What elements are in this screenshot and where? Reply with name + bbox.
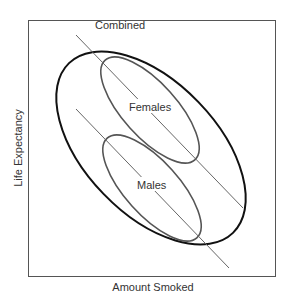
x-axis-label: Amount Smoked <box>112 281 193 293</box>
combined-label: Combined <box>95 19 145 31</box>
diagram-canvas: Combined Females Males Amount Smoked Lif… <box>0 0 292 297</box>
males-label: Males <box>137 179 167 191</box>
y-axis-label: Life Expectancy <box>12 109 24 187</box>
females-label: Females <box>129 101 172 113</box>
